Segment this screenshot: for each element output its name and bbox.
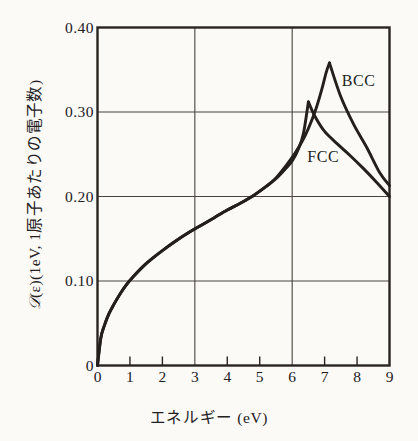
- series-line-fcc: [98, 102, 309, 366]
- x-axis-tick-label: 9: [378, 369, 402, 385]
- series-line-bcc: [98, 63, 330, 366]
- series-label-bcc: BCC: [342, 72, 376, 90]
- x-axis-tick-labels: 0123456789: [0, 369, 418, 393]
- x-axis-tick-label: 2: [150, 369, 174, 385]
- axis-ticks: [130, 357, 357, 366]
- x-axis-tick-label: 7: [313, 369, 337, 385]
- x-axis-tick-label: 6: [280, 369, 304, 385]
- x-axis-label: エネルギー (eV): [0, 405, 418, 427]
- x-axis-tick-label: 8: [345, 369, 369, 385]
- x-axis-tick-label: 5: [248, 369, 272, 385]
- x-axis-tick-label: 4: [215, 369, 239, 385]
- x-axis-tick-label: 1: [118, 369, 142, 385]
- series-label-fcc: FCC: [307, 148, 339, 166]
- data-series: [98, 63, 390, 366]
- x-axis-tick-label: 0: [86, 369, 110, 385]
- x-axis-tick-label: 3: [183, 369, 207, 385]
- figure-container: 𝒟(ε)(1eV, 1原子あたりの電子数) 00.100.200.300.40 …: [0, 0, 418, 441]
